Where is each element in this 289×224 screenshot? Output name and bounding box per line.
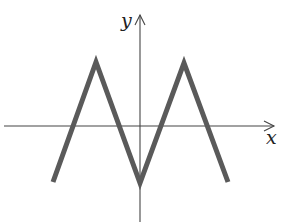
graph-canvas (0, 0, 289, 224)
y-axis-label: y (121, 11, 132, 30)
x-axis (4, 121, 274, 131)
y-axis (135, 15, 145, 222)
x-axis-label: x (266, 128, 277, 147)
